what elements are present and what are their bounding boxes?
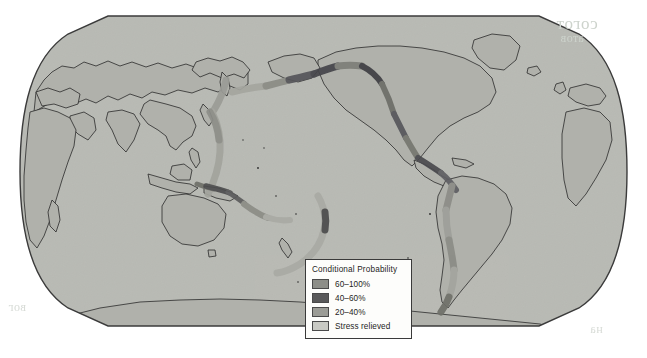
legend-row: 40–60% [312, 291, 405, 305]
band-kermadec-dark [325, 212, 326, 230]
legend-label: 60–100% [335, 280, 370, 289]
band-alaska-peninsula [338, 65, 362, 66]
legend-swatch-40-60 [312, 293, 329, 303]
land-tasmania [208, 250, 216, 257]
legend-swatch-60-100 [312, 279, 329, 289]
legend-swatch-stress-relieved [312, 321, 329, 331]
legend-row: Stress relieved [312, 319, 405, 333]
legend-title: Conditional Probability [312, 265, 405, 275]
band-peru [446, 210, 449, 240]
land-europe [36, 88, 80, 108]
legend-row: 60–100% [312, 277, 405, 291]
map-legend: Conditional Probability 60–100%40–60%20–… [305, 259, 412, 339]
legend-row: 20–40% [312, 305, 405, 319]
map-figure: согот атов вог на Conditional Probabilit… [0, 0, 647, 358]
legend-label: 40–60% [335, 294, 366, 303]
band-vanuatu [266, 217, 290, 220]
legend-label: Stress relieved [335, 322, 390, 331]
legend-rows: 60–100%40–60%20–40%Stress relieved [312, 277, 405, 333]
legend-swatch-20-40 [312, 307, 329, 317]
legend-label: 20–40% [335, 308, 366, 317]
